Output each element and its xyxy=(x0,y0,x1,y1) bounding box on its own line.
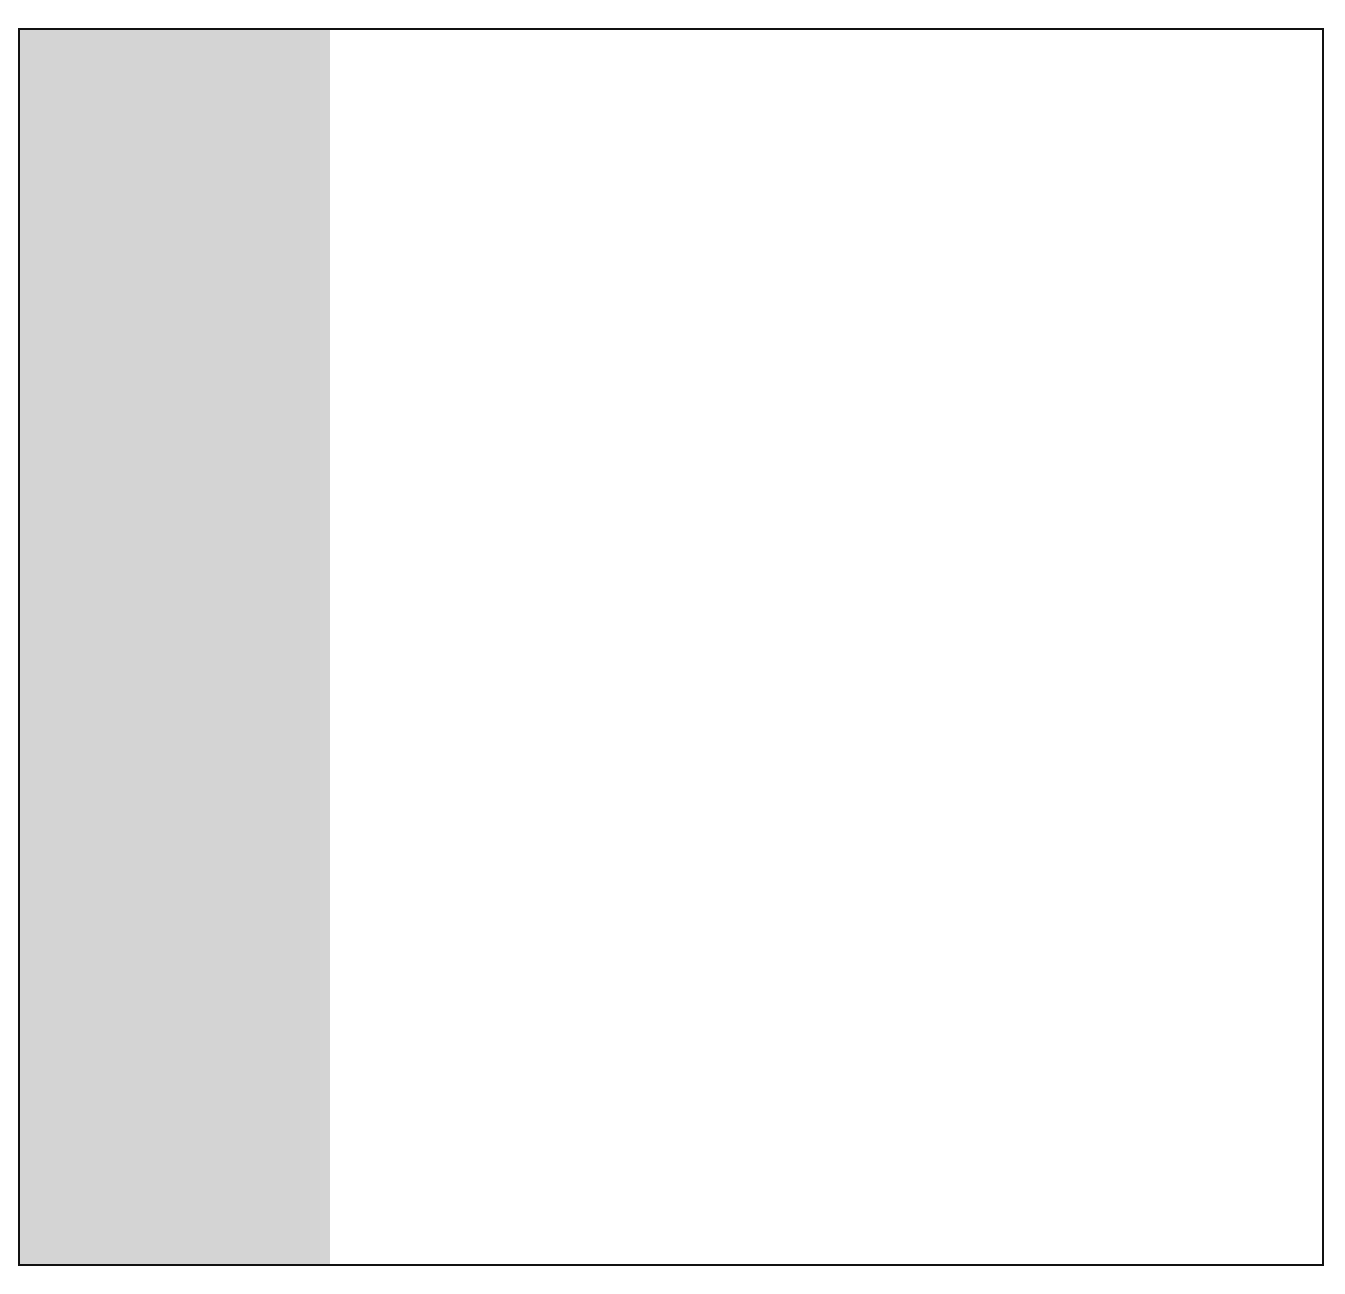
chart-column xyxy=(330,30,1322,1264)
plot-area xyxy=(330,30,1322,1264)
figure-page xyxy=(0,0,1345,1294)
caption-column xyxy=(20,30,330,1264)
